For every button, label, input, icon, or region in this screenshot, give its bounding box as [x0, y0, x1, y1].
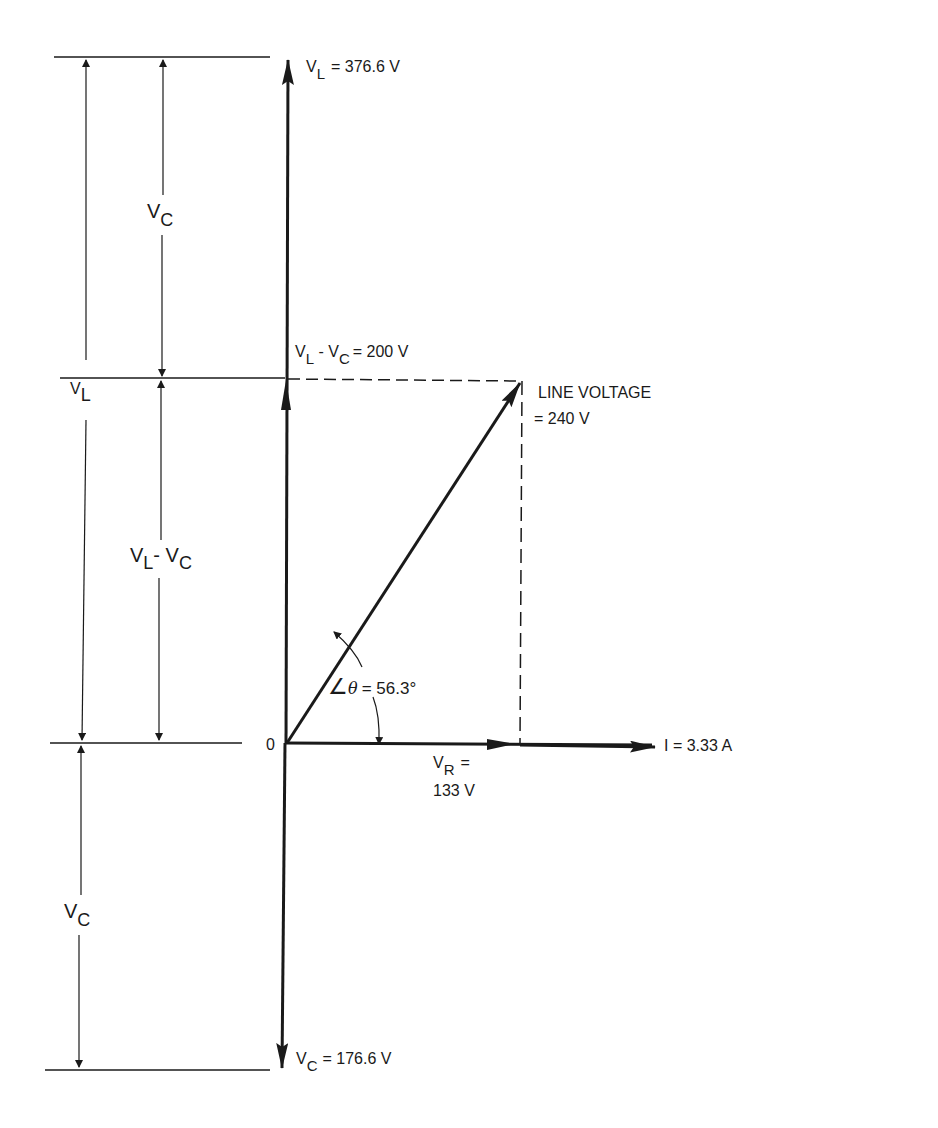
dim-vlvc-label: VL- VC: [130, 544, 192, 573]
dim-vc-bottom-label: VC: [64, 900, 90, 930]
dim-vc-top-label: VC: [147, 200, 173, 230]
vr-value: 133 V: [433, 782, 475, 799]
vl-vc-label: VL - VC= 200 V: [295, 343, 409, 367]
angle-label: ∠θ= 56.3°: [328, 674, 416, 699]
dim-vl-line-lower: [82, 420, 86, 740]
vl-vc-arrowhead: [281, 380, 291, 410]
vr-label: VR=: [433, 754, 470, 778]
vl-top-label: VL= 376.6 V: [306, 58, 400, 82]
current-phasor: [520, 745, 655, 747]
dim-vl-label: VL: [70, 380, 91, 405]
dashed-vertical: [520, 381, 522, 743]
line-voltage-label-2: = 240 V: [534, 410, 590, 427]
vc-phasor: [282, 743, 285, 1068]
vc-bottom-label: VC= 176.6 V: [296, 1050, 392, 1074]
dashed-horizontal: [288, 379, 522, 381]
current-label: I = 3.33 A: [664, 737, 732, 754]
origin-label: 0: [266, 736, 275, 753]
vr-arrowhead: [487, 739, 515, 750]
phasor-diagram: VL VC VL- VC VC VL= 376.6 V VL - VC= 200…: [0, 0, 938, 1128]
angle-arc-lower: [373, 697, 379, 744]
line-voltage-label-1: LINE VOLTAGE: [538, 384, 651, 401]
